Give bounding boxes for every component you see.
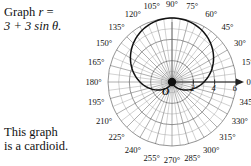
angle-label: 90°: [166, 0, 179, 9]
polar-plot: 246 0°15°30°45°60°75°90°105°120°135°150°…: [86, 0, 251, 166]
angle-label: 60°: [205, 9, 218, 19]
conclusion-caption: This graph is a cardioid.: [4, 125, 68, 153]
angle-label: 30°: [234, 38, 247, 48]
prompt-line-2-equation: 3 + 3 sin θ.: [4, 19, 61, 33]
problem-prompt: Graph r = 3 + 3 sin θ.: [4, 5, 61, 33]
angle-label: 150°: [96, 38, 113, 48]
prompt-line-1: Graph r =: [4, 5, 61, 19]
angle-label: 0°: [247, 77, 251, 87]
angle-label: 105°: [144, 1, 161, 11]
conclusion-line-1: This graph: [4, 125, 68, 139]
prompt-graph-word: Graph: [4, 5, 38, 19]
radial-tick-label-group: 246: [190, 83, 238, 93]
angle-label: 255°: [144, 153, 161, 163]
angle-label: 15°: [242, 57, 251, 67]
angle-label: 195°: [88, 97, 105, 107]
pole-point-marker: [168, 78, 176, 86]
angle-label: 180°: [86, 77, 102, 87]
pole-origin-label: O: [162, 86, 169, 97]
polar-graph-figure: Graph r = 3 + 3 sin θ. This graph is a c…: [0, 0, 251, 166]
radial-tick-label: 4: [212, 83, 217, 93]
angle-label: 165°: [88, 57, 105, 67]
prompt-equals: =: [43, 5, 53, 19]
angle-label: 120°: [125, 9, 142, 19]
angle-label: 285°: [184, 153, 201, 163]
angle-label: 75°: [186, 1, 199, 11]
angle-label: 300°: [203, 145, 220, 155]
angle-label: 240°: [125, 145, 142, 155]
angle-label: 270°: [164, 155, 181, 165]
angle-label: 45°: [221, 22, 234, 32]
angle-label: 225°: [108, 132, 125, 142]
angle-label: 345°: [240, 97, 251, 107]
angle-label: 330°: [232, 116, 249, 126]
radial-tick-label: 6: [233, 83, 238, 93]
angle-label: 135°: [108, 22, 125, 32]
angle-label: 315°: [219, 132, 236, 142]
angle-label: 210°: [96, 116, 113, 126]
polar-axis-arrow-icon: [236, 79, 244, 86]
radial-tick-label: 2: [190, 83, 195, 93]
conclusion-line-2: is a cardioid.: [4, 139, 68, 153]
